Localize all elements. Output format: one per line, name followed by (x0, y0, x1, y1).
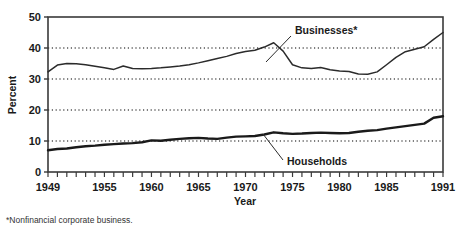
x-axis-label-1949: 1949 (36, 181, 60, 193)
series-annotation-businesses: Businesses* (295, 24, 358, 36)
y-axis-labels: 50 40 30 20 10 0 (29, 11, 41, 178)
x-axis-label-1960: 1960 (139, 181, 163, 193)
plot-background (48, 17, 443, 172)
series-annotation-households: Households (287, 155, 347, 167)
chart-svg: 50 40 30 20 10 0 Percent 1949 1955 1960 … (0, 0, 467, 226)
x-axis-title: Year (234, 195, 256, 207)
x-axis-label-1955: 1955 (92, 181, 116, 193)
x-axis-label-1991: 1991 (431, 181, 455, 193)
x-axis-label-1975: 1975 (280, 181, 304, 193)
y-axis-label-0: 0 (35, 166, 41, 178)
y-axis-label-40: 40 (29, 42, 41, 54)
y-axis-label-10: 10 (29, 135, 41, 147)
chart-figure: 50 40 30 20 10 0 Percent 1949 1955 1960 … (0, 0, 467, 226)
x-axis-label-1970: 1970 (233, 181, 257, 193)
x-axis-labels: 1949 1955 1960 1965 1970 1975 1980 1985 … (36, 181, 455, 193)
x-axis-label-1965: 1965 (186, 181, 210, 193)
chart-footnote: *Nonfinancial corporate business. (6, 215, 133, 225)
x-axis-label-1980: 1980 (327, 181, 351, 193)
y-axis-label-50: 50 (29, 11, 41, 23)
y-axis-label-20: 20 (29, 104, 41, 116)
y-axis-label-30: 30 (29, 73, 41, 85)
x-axis-label-1985: 1985 (374, 181, 398, 193)
y-axis-title: Percent (6, 75, 18, 114)
